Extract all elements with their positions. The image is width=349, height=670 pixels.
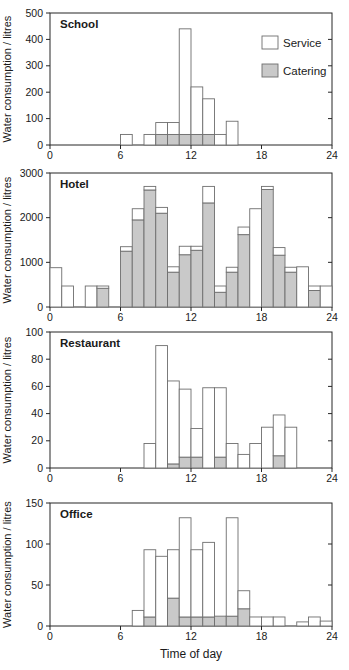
x-tick-label: 0 xyxy=(47,630,53,642)
y-tick-label: 0 xyxy=(37,620,43,632)
bar-catering xyxy=(97,288,109,307)
x-tick-label: 0 xyxy=(47,472,53,484)
y-tick-label: 0 xyxy=(37,139,43,151)
bar-service xyxy=(297,622,309,626)
legend-swatch-service xyxy=(262,36,278,49)
bar-catering xyxy=(215,616,227,626)
y-tick-label: 40 xyxy=(31,407,43,419)
bar-service xyxy=(262,617,274,626)
bar-catering xyxy=(191,250,203,307)
bar-service xyxy=(62,286,74,307)
bar-service xyxy=(191,87,203,135)
bar-service xyxy=(238,227,250,235)
y-tick-label: 400 xyxy=(25,33,43,45)
bar-catering xyxy=(191,134,203,145)
bar-service xyxy=(85,286,97,307)
legend-swatch-catering xyxy=(262,64,278,77)
bar-catering xyxy=(179,255,191,307)
y-tick-label: 1000 xyxy=(20,256,44,268)
bar-catering xyxy=(273,255,285,307)
bar-catering xyxy=(203,617,215,626)
bar-service xyxy=(238,454,250,468)
x-tick-label: 12 xyxy=(185,472,197,484)
x-tick-label: 18 xyxy=(256,630,268,642)
bar-service xyxy=(191,429,203,458)
panel-title: Hotel xyxy=(60,178,89,190)
bar-service xyxy=(226,518,238,616)
panel-restaurant: 02040608010006121824RestaurantWater cons… xyxy=(1,326,338,485)
x-tick-label: 6 xyxy=(118,149,124,161)
bar-service xyxy=(203,542,215,617)
y-tick-label: 0 xyxy=(37,462,43,474)
y-axis-title: Water consumption / litres xyxy=(1,501,13,628)
bar-catering xyxy=(203,203,215,307)
bar-catering xyxy=(132,220,144,307)
bar-service xyxy=(179,518,191,617)
bar-catering xyxy=(121,251,133,307)
bar-service xyxy=(273,617,285,626)
bar-catering xyxy=(179,617,191,626)
panel-school: 010020030040050006121824SchoolWater cons… xyxy=(1,7,338,162)
bar-service xyxy=(121,134,133,145)
x-tick-label: 24 xyxy=(326,149,338,161)
x-tick-label: 0 xyxy=(47,149,53,161)
y-tick-label: 150 xyxy=(25,497,43,509)
bar-catering xyxy=(238,235,250,307)
bar-service xyxy=(285,267,297,272)
bar-service xyxy=(250,444,262,468)
bar-catering xyxy=(215,292,227,307)
bar-catering xyxy=(309,290,321,307)
bar-service xyxy=(144,134,156,145)
panel-title: School xyxy=(60,18,98,30)
bar-service xyxy=(156,346,168,468)
bar-service xyxy=(215,388,227,457)
bar-service xyxy=(132,610,144,626)
bar-catering xyxy=(168,134,180,145)
bar-service xyxy=(203,186,215,203)
x-axis: 06121824 xyxy=(47,145,338,161)
bar-service xyxy=(121,247,133,251)
y-axis-title: Water consumption / litres xyxy=(1,15,13,142)
panel-office: 05010015006121824OfficeWater consumption… xyxy=(1,497,338,643)
bar-catering xyxy=(273,456,285,468)
bar-service xyxy=(144,186,156,190)
bar-service xyxy=(215,134,227,145)
bar-service xyxy=(50,268,62,307)
legend-label-catering: Catering xyxy=(283,65,326,77)
x-tick-label: 12 xyxy=(185,149,197,161)
y-tick-label: 20 xyxy=(31,434,43,446)
bar-service xyxy=(168,267,180,272)
bar-service xyxy=(320,286,332,307)
bar-catering xyxy=(285,272,297,307)
bar-service xyxy=(191,246,203,250)
x-axis: 06121824 xyxy=(47,626,338,642)
bar-service xyxy=(226,267,238,272)
y-tick-label: 2000 xyxy=(20,211,44,223)
bar-catering xyxy=(179,134,191,145)
water-consumption-figure: 010020030040050006121824SchoolWater cons… xyxy=(0,0,349,670)
y-tick-label: 200 xyxy=(25,86,43,98)
y-tick-label: 60 xyxy=(31,380,43,392)
bar-service xyxy=(262,186,274,189)
bar-service xyxy=(238,591,250,609)
bar-catering xyxy=(179,457,191,468)
y-tick-label: 100 xyxy=(25,326,43,338)
bar-catering xyxy=(215,457,227,468)
x-axis-title: Time of day xyxy=(160,647,222,661)
x-tick-label: 18 xyxy=(256,472,268,484)
panel-hotel: 010002000300006121824HotelWater consumpt… xyxy=(1,167,338,324)
bar-service xyxy=(309,617,321,626)
bar-catering xyxy=(238,609,250,626)
bar-service xyxy=(215,286,227,292)
bar-service xyxy=(156,556,168,626)
bar-catering xyxy=(168,464,180,468)
bar-service xyxy=(144,550,156,617)
bar-catering xyxy=(262,190,274,307)
bar-catering xyxy=(226,616,238,626)
y-tick-label: 100 xyxy=(25,538,43,550)
x-tick-label: 12 xyxy=(185,630,197,642)
bar-service xyxy=(156,123,168,135)
bar-service xyxy=(179,246,191,254)
legend-label-service: Service xyxy=(283,37,321,49)
bar-service xyxy=(273,415,285,456)
